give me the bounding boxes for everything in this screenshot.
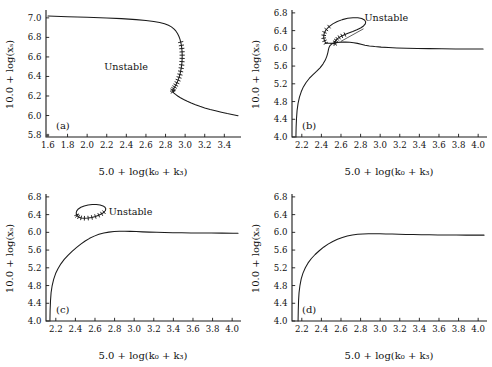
x-tick-label: 3.4 — [217, 140, 231, 150]
y-tick-label: 5.2 — [274, 263, 288, 273]
y-tick-label: 6.8 — [28, 32, 42, 42]
axis-spines — [292, 194, 487, 321]
x-tick-label: 2.8 — [354, 324, 368, 334]
y-tick-label: 4.0 — [274, 316, 288, 326]
x-axis-title: 5.0 + log(k₀ + k₃) — [345, 350, 434, 361]
y-tick-label: 6.4 — [274, 26, 288, 36]
y-tick-label: 6.4 — [28, 210, 42, 220]
x-tick-label: 4.0 — [471, 140, 485, 150]
x-tick-label: 2.2 — [100, 140, 114, 150]
y-tick-label: 4.8 — [274, 97, 288, 107]
x-tick-label: 2.8 — [354, 140, 368, 150]
panel-d: 4.04.44.85.25.66.06.46.82.22.42.62.83.03… — [246, 184, 492, 367]
axis-spines — [46, 10, 241, 137]
x-tick-label: 4.0 — [225, 324, 239, 334]
y-tick-label: 5.2 — [274, 79, 288, 89]
y-tick-label: 4.0 — [28, 316, 42, 326]
x-tick-label: 3.2 — [198, 140, 212, 150]
y-tick-label: 4.8 — [28, 281, 42, 291]
x-tick-label: 3.4 — [167, 324, 181, 334]
y-tick-label: 4.8 — [274, 281, 288, 291]
x-tick-label: 3.4 — [413, 324, 427, 334]
y-tick-label: 6.8 — [274, 8, 288, 18]
panel-b: 4.04.44.85.25.66.06.46.82.22.42.62.83.03… — [246, 0, 492, 183]
x-tick-label: 3.6 — [186, 324, 200, 334]
x-tick-label: 1.8 — [61, 140, 75, 150]
panel-letter: (d) — [302, 304, 316, 315]
y-tick-label: 5.6 — [274, 61, 288, 71]
x-tick-label: 2.8 — [159, 140, 173, 150]
x-tick-label: 3.8 — [206, 324, 220, 334]
x-tick-label: 2.6 — [334, 324, 348, 334]
bifurcation-figure: 5.86.06.26.46.66.87.01.61.82.02.22.42.62… — [0, 0, 492, 367]
panel-letter: (a) — [56, 120, 70, 131]
unstable-hatching — [170, 41, 185, 93]
x-tick-label: 3.6 — [432, 324, 446, 334]
unstable-hatching — [333, 32, 346, 45]
x-axis-title: 5.0 + log(k₀ + k₃) — [345, 166, 434, 177]
x-tick-label: 3.8 — [452, 324, 466, 334]
y-tick-label: 6.8 — [274, 192, 288, 202]
x-tick-label: 2.2 — [49, 324, 63, 334]
x-tick-label: 2.4 — [315, 324, 329, 334]
x-tick-label: 2.6 — [334, 140, 348, 150]
x-tick-label: 2.4 — [315, 140, 329, 150]
y-tick-label: 6.0 — [28, 111, 42, 121]
x-tick-label: 2.2 — [295, 324, 309, 334]
y-tick-label: 5.6 — [28, 245, 42, 255]
x-tick-label: 2.0 — [80, 140, 94, 150]
y-tick-label: 5.8 — [28, 130, 42, 140]
x-axis-title: 5.0 + log(k₀ + k₃) — [99, 350, 188, 361]
y-tick-label: 6.8 — [28, 192, 42, 202]
y-tick-label: 6.2 — [28, 91, 42, 101]
y-tick-label: 6.4 — [274, 210, 288, 220]
y-tick-label: 5.6 — [274, 245, 288, 255]
x-tick-label: 2.4 — [120, 140, 134, 150]
x-tick-label: 2.6 — [88, 324, 102, 334]
x-tick-label: 3.0 — [127, 324, 141, 334]
y-tick-label: 6.0 — [28, 227, 42, 237]
panel-a: 5.86.06.26.46.66.87.01.61.82.02.22.42.62… — [0, 0, 246, 183]
y-tick-label: 5.2 — [28, 263, 42, 273]
unstable-label: Unstable — [109, 206, 153, 217]
branch-curve — [50, 231, 238, 321]
x-tick-label: 1.6 — [41, 140, 55, 150]
y-tick-label: 4.4 — [28, 298, 42, 308]
branch-curve — [298, 234, 484, 321]
y-tick-label: 4.0 — [274, 132, 288, 142]
x-tick-label: 2.8 — [108, 324, 122, 334]
panel-letter: (b) — [302, 120, 316, 131]
branch-curve — [296, 42, 483, 137]
x-tick-label: 3.0 — [178, 140, 192, 150]
y-tick-label: 7.0 — [28, 13, 42, 23]
y-axis-title: 10.0 + log(xₛ) — [250, 40, 261, 110]
x-tick-label: 3.0 — [373, 140, 387, 150]
x-tick-label: 3.4 — [413, 140, 427, 150]
y-axis-title: 10.0 + log(xₛ) — [4, 40, 15, 110]
unstable-label: Unstable — [104, 61, 148, 72]
isola-curve — [76, 204, 106, 218]
unstable-hatching — [321, 25, 330, 44]
y-tick-label: 4.4 — [274, 114, 288, 124]
x-tick-label: 2.2 — [295, 140, 309, 150]
panel-letter: (c) — [56, 304, 70, 315]
x-tick-label: 3.8 — [452, 140, 466, 150]
y-axis-title: 10.0 + log(xₛ) — [250, 224, 261, 294]
x-tick-label: 3.2 — [393, 324, 407, 334]
x-tick-label: 4.0 — [471, 324, 485, 334]
x-tick-label: 2.6 — [139, 140, 153, 150]
x-tick-label: 2.4 — [69, 324, 83, 334]
y-tick-label: 6.0 — [274, 227, 288, 237]
y-tick-label: 6.4 — [28, 71, 42, 81]
x-axis-title: 5.0 + log(k₀ + k₃) — [99, 166, 188, 177]
y-tick-label: 4.4 — [274, 298, 288, 308]
unstable-label: Unstable — [365, 12, 409, 23]
y-tick-label: 6.6 — [28, 52, 42, 62]
panel-c: 4.04.44.85.25.66.06.46.82.22.42.62.83.03… — [0, 184, 246, 367]
y-axis-title: 10.0 + log(xₛ) — [4, 224, 15, 294]
x-tick-label: 3.6 — [432, 140, 446, 150]
x-tick-label: 3.0 — [373, 324, 387, 334]
y-tick-label: 6.0 — [274, 43, 288, 53]
x-tick-label: 3.2 — [393, 140, 407, 150]
x-tick-label: 3.2 — [147, 324, 161, 334]
